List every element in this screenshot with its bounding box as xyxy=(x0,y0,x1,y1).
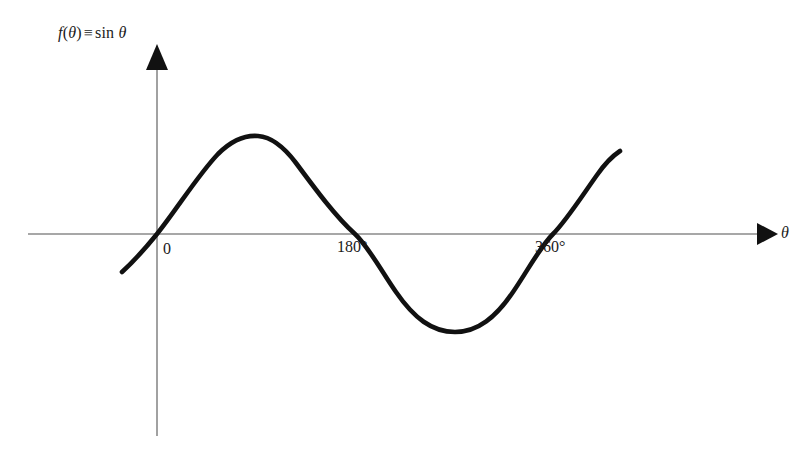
y-axis-label-close-paren: ) xyxy=(76,24,82,41)
x-tick-label-0: 0 xyxy=(163,240,171,258)
y-axis-label: f(θ)≡sin θ xyxy=(58,24,127,42)
sine-curve-figure: f(θ)≡sin θ θ 0 180° 360° xyxy=(0,0,811,461)
x-axis-label: θ xyxy=(781,224,789,242)
x-axis-arrowhead-icon xyxy=(757,223,778,245)
x-tick-label-180: 180° xyxy=(337,238,367,256)
identity-operator: ≡ xyxy=(82,24,95,41)
x-tick-label-360: 360° xyxy=(535,238,565,256)
y-axis-arrowhead-icon xyxy=(146,44,168,70)
y-axis-label-trig-argument: θ xyxy=(119,24,127,41)
y-axis-label-trig: sin xyxy=(95,24,114,41)
sine-plot-canvas xyxy=(0,0,811,461)
